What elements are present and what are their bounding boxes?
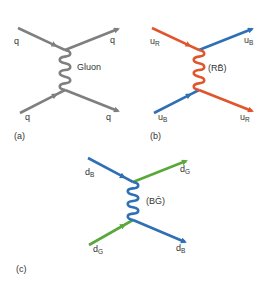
leg-label-top-right: dG [180, 164, 190, 175]
quark-line-bottom-right [65, 90, 118, 111]
leg-label-top-right: q [110, 35, 115, 45]
mediator-label: (RB̄) [208, 63, 227, 73]
feynman-diagrams: q q q q Gluon (a) uR uB uB uR (RB̄) (b) … [0, 0, 267, 286]
quark-line-top-left [18, 28, 65, 50]
leg-label-top-left: uR [150, 36, 160, 47]
leg-label-bottom-left: dG [93, 244, 103, 255]
mediator-label: (BḠ) [146, 196, 165, 206]
gluon-wavy-line [128, 182, 139, 220]
panel-c: dB dG dG dB (BḠ) (c) [16, 158, 190, 274]
quark-line-bottom-right [133, 220, 185, 242]
mediator-label: Gluon [77, 62, 101, 72]
gluon-wavy-line [60, 50, 71, 90]
quark-line-bottom-right [199, 90, 252, 111]
leg-label-bottom-right: q [106, 112, 111, 122]
quark-line-top-right [133, 161, 186, 182]
leg-label-top-left: dB [85, 167, 94, 178]
quark-line-top-left [88, 158, 133, 182]
quark-line-bottom-left [89, 220, 133, 245]
quark-line-bottom-left [20, 90, 65, 113]
leg-label-top-right: uB [244, 35, 253, 46]
quark-line-bottom-left [154, 90, 199, 113]
leg-label-bottom-right: uR [240, 112, 250, 123]
panel-a: q q q q Gluon (a) [14, 28, 118, 141]
leg-label-bottom-left: q [25, 112, 30, 122]
panel-b: uR uB uB uR (RB̄) (b) [150, 28, 253, 141]
leg-label-bottom-left: uB [158, 112, 167, 123]
panel-caption: (a) [14, 131, 25, 141]
panel-caption: (c) [16, 264, 27, 274]
gluon-wavy-line [194, 50, 205, 90]
panel-caption: (b) [150, 131, 161, 141]
leg-label-bottom-right: dB [176, 243, 185, 254]
leg-label-top-left: q [14, 36, 19, 46]
